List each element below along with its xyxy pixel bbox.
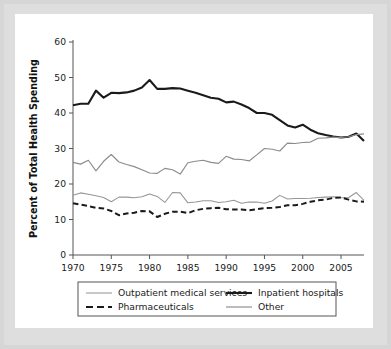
legend-label: Inpatient hospitals	[258, 287, 344, 298]
y-tick-label: 40	[54, 107, 66, 118]
x-axis-tick-labels: 19701975198019851990199520002005	[61, 262, 353, 273]
legend-label: Pharmaceuticals	[118, 301, 194, 312]
chart-legend: Outpatient medical servicesInpatient hos…	[78, 282, 344, 316]
x-tick-label: 1990	[214, 262, 238, 273]
series-line	[73, 197, 364, 217]
legend-items: Outpatient medical servicesInpatient hos…	[86, 287, 344, 312]
x-tick-label: 2000	[291, 262, 315, 273]
y-tick-label: 50	[54, 72, 66, 83]
x-tick-label: 1995	[253, 262, 277, 273]
axes-group	[69, 40, 364, 259]
x-tick-label: 1975	[100, 262, 124, 273]
x-tick-label: 1980	[138, 262, 162, 273]
x-tick-label: 2005	[329, 262, 353, 273]
series-line	[73, 134, 364, 174]
chart-plot-area: 0102030405060 19701975198019851990199520…	[15, 14, 373, 328]
series-line	[73, 80, 364, 141]
legend-label: Other	[258, 301, 284, 312]
y-tick-label: 0	[60, 249, 66, 260]
y-axis-ticks	[69, 42, 73, 255]
series-line	[73, 193, 364, 204]
chart-card: 0102030405060 19701975198019851990199520…	[15, 14, 373, 328]
y-tick-label: 60	[54, 36, 66, 47]
x-tick-label: 1985	[176, 262, 200, 273]
data-series-group	[73, 80, 364, 217]
y-tick-label: 10	[54, 214, 66, 225]
x-tick-label: 1970	[61, 262, 85, 273]
x-axis-ticks	[73, 255, 341, 259]
y-tick-label: 30	[54, 143, 66, 154]
y-axis-title: Percent of Total Health Spending	[28, 59, 39, 238]
figure-root: 0102030405060 19701975198019851990199520…	[0, 0, 391, 349]
line-chart: 0102030405060 19701975198019851990199520…	[15, 14, 373, 328]
y-tick-label: 20	[54, 178, 66, 189]
y-axis-tick-labels: 0102030405060	[54, 36, 66, 260]
